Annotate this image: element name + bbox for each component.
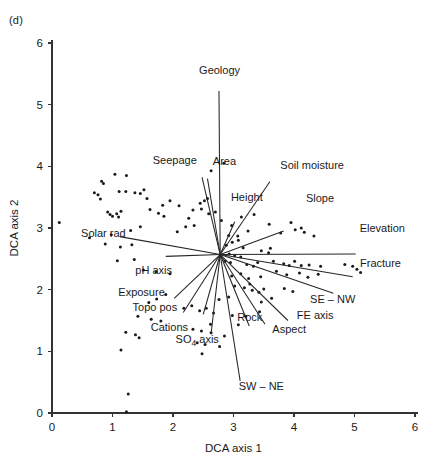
data-point bbox=[275, 270, 278, 273]
vector-line-elevation bbox=[220, 254, 356, 255]
data-point bbox=[218, 345, 221, 348]
so4-suffix: axis bbox=[196, 333, 219, 345]
y-tick-label: 2 bbox=[37, 284, 43, 296]
vector-line-se-nw bbox=[220, 255, 333, 294]
data-point bbox=[124, 190, 127, 193]
data-point bbox=[230, 275, 233, 278]
data-point bbox=[262, 288, 265, 291]
data-point bbox=[203, 199, 206, 202]
vector-label-se-nw: SE – NW bbox=[310, 293, 356, 305]
data-point bbox=[285, 273, 288, 276]
data-point bbox=[139, 192, 142, 195]
data-point bbox=[300, 227, 303, 230]
data-point bbox=[134, 333, 137, 336]
x-tick-label: 6 bbox=[412, 421, 418, 433]
data-point bbox=[100, 180, 103, 183]
y-tick-label: 4 bbox=[37, 160, 44, 172]
x-tick-label: 1 bbox=[109, 421, 115, 433]
data-point bbox=[199, 202, 202, 205]
data-point bbox=[119, 349, 122, 352]
data-point bbox=[260, 249, 263, 252]
data-point bbox=[236, 235, 239, 238]
vector-label-topo-pos: Topo pos bbox=[133, 301, 178, 313]
vector-label-fracture: Fracture bbox=[360, 257, 401, 269]
vector-line-geology bbox=[219, 91, 220, 254]
data-point bbox=[270, 297, 273, 300]
data-point bbox=[161, 204, 164, 207]
data-point bbox=[217, 298, 220, 301]
data-point bbox=[58, 221, 61, 224]
data-point bbox=[133, 258, 136, 261]
data-point bbox=[184, 225, 187, 228]
data-point bbox=[200, 329, 203, 332]
data-point bbox=[187, 217, 190, 220]
vector-label-rock: Rock bbox=[237, 311, 263, 323]
data-point bbox=[149, 208, 152, 211]
y-tick-label: 3 bbox=[37, 222, 43, 234]
data-point bbox=[200, 207, 203, 210]
data-point bbox=[317, 273, 320, 276]
x-tick-label: 3 bbox=[230, 421, 236, 433]
data-point bbox=[231, 241, 234, 244]
data-point bbox=[207, 212, 210, 215]
data-point bbox=[231, 314, 234, 317]
vector-line-area bbox=[207, 179, 220, 255]
vector-label-aspect: Aspect bbox=[272, 323, 306, 335]
data-point bbox=[176, 230, 179, 233]
data-point bbox=[138, 336, 141, 339]
data-point bbox=[191, 209, 194, 212]
data-point bbox=[102, 182, 105, 185]
data-point bbox=[294, 228, 297, 231]
data-point bbox=[243, 286, 246, 289]
data-point bbox=[300, 264, 303, 267]
x-tick-label: 2 bbox=[170, 421, 176, 433]
vector-label-seepage: Seepage bbox=[153, 154, 197, 166]
data-point bbox=[125, 174, 128, 177]
data-point bbox=[343, 263, 346, 266]
data-point bbox=[260, 301, 263, 304]
vector-label-fe-axis: FE axis bbox=[297, 309, 334, 321]
vector-label-height: Height bbox=[231, 191, 263, 203]
y-tick-label: 1 bbox=[37, 345, 43, 357]
data-point bbox=[267, 251, 270, 254]
data-point bbox=[308, 264, 311, 267]
data-point bbox=[162, 215, 165, 218]
data-point bbox=[210, 169, 213, 172]
data-point bbox=[127, 392, 130, 395]
x-axis-title: DCA axis 1 bbox=[205, 442, 262, 454]
data-point bbox=[142, 188, 145, 191]
data-point bbox=[293, 260, 296, 263]
vector-label-so4-axis: SO4 axis bbox=[176, 333, 220, 348]
data-point bbox=[190, 304, 193, 307]
x-tick-label: 4 bbox=[291, 421, 298, 433]
data-point bbox=[237, 323, 240, 326]
data-point bbox=[193, 224, 196, 227]
data-point bbox=[125, 410, 128, 413]
data-point bbox=[109, 213, 112, 216]
data-point bbox=[115, 212, 118, 215]
vector-line-solar-rad bbox=[120, 237, 220, 255]
data-point bbox=[99, 198, 102, 201]
data-point bbox=[106, 210, 109, 213]
data-point bbox=[129, 229, 132, 232]
data-point bbox=[119, 246, 122, 249]
vector-label-exposure: Exposure bbox=[118, 286, 164, 298]
dca-biplot-figure: (d) 01234560123456 GeologyAreaSeepageSoi… bbox=[0, 0, 440, 461]
data-point bbox=[111, 215, 114, 218]
data-point bbox=[253, 213, 256, 216]
data-point bbox=[247, 277, 250, 280]
so4-prefix: SO bbox=[176, 333, 192, 345]
data-point bbox=[351, 265, 354, 268]
data-point bbox=[240, 215, 243, 218]
data-point bbox=[168, 199, 171, 202]
dca-ordination-plot: 01234560123456 GeologyAreaSeepageSoil mo… bbox=[0, 0, 440, 461]
vector-label-geology: Geology bbox=[199, 64, 240, 76]
data-point bbox=[133, 191, 136, 194]
data-point bbox=[178, 204, 181, 207]
data-point bbox=[289, 221, 292, 224]
vector-label-solar-rad: Solar rad bbox=[81, 227, 126, 239]
y-tick-label: 5 bbox=[37, 99, 43, 111]
data-point bbox=[117, 215, 120, 218]
y-axis-title: DCA axis 2 bbox=[8, 200, 20, 257]
x-tick-label: 0 bbox=[49, 421, 55, 433]
